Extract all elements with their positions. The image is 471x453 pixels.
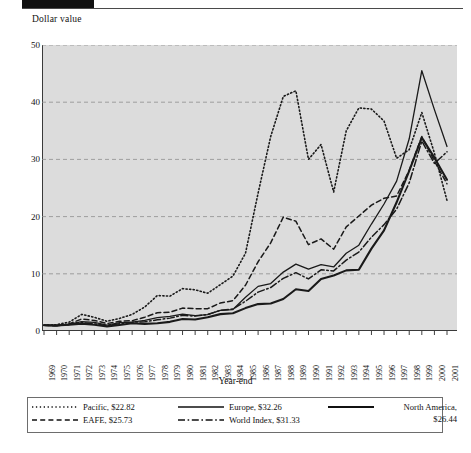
x-axis-ticks: 1969197019711972197319741975197619771978… (42, 333, 457, 373)
plot-area (42, 45, 457, 331)
legend-entry: Pacific, $22.82 (32, 401, 135, 413)
y-axis-title: Dollar value (32, 14, 82, 24)
legend-label: World Index, $31.33 (229, 414, 300, 426)
legend-line-swatch (328, 401, 374, 413)
y-tick-label: 0 (18, 326, 40, 336)
legend-box: Pacific, $22.82EAFE, $25.73Europe, $32.2… (27, 397, 443, 433)
legend-label-line1: North America, (404, 402, 457, 412)
legend-entries: Pacific, $22.82EAFE, $25.73Europe, $32.2… (28, 398, 442, 432)
legend-label: Europe, $32.26 (229, 401, 282, 413)
legend-entry: World Index, $31.33 (178, 414, 300, 426)
legend-entry: EAFE, $25.73 (32, 414, 132, 426)
legend-label-line2: $26.44 (433, 414, 457, 424)
x-axis-title: Year-end (0, 376, 471, 386)
series-line-europe (44, 71, 447, 326)
legend-label: North America,$26.44 (379, 401, 457, 425)
legend-entry: North America,$26.44 (328, 401, 457, 425)
y-tick-label: 50 (18, 40, 40, 50)
legend-label: Pacific, $22.82 (83, 401, 135, 413)
y-tick-label: 30 (18, 154, 40, 164)
y-tick-label: 10 (18, 269, 40, 279)
y-tick-label: 40 (18, 97, 40, 107)
legend-line-swatch (32, 414, 78, 426)
header-rule (22, 8, 463, 9)
figure-root: Dollar value 01020304050 196919701971197… (0, 0, 471, 453)
series-line-pacific (44, 91, 447, 326)
legend-line-swatch (178, 401, 224, 413)
legend-line-swatch (178, 414, 224, 426)
legend-entry: Europe, $32.26 (178, 401, 282, 413)
chart-lines (42, 45, 457, 337)
y-axis-ticks: 01020304050 (16, 45, 40, 331)
y-tick-label: 20 (18, 212, 40, 222)
legend-label: EAFE, $25.73 (83, 414, 132, 426)
legend-line-swatch (32, 401, 78, 413)
